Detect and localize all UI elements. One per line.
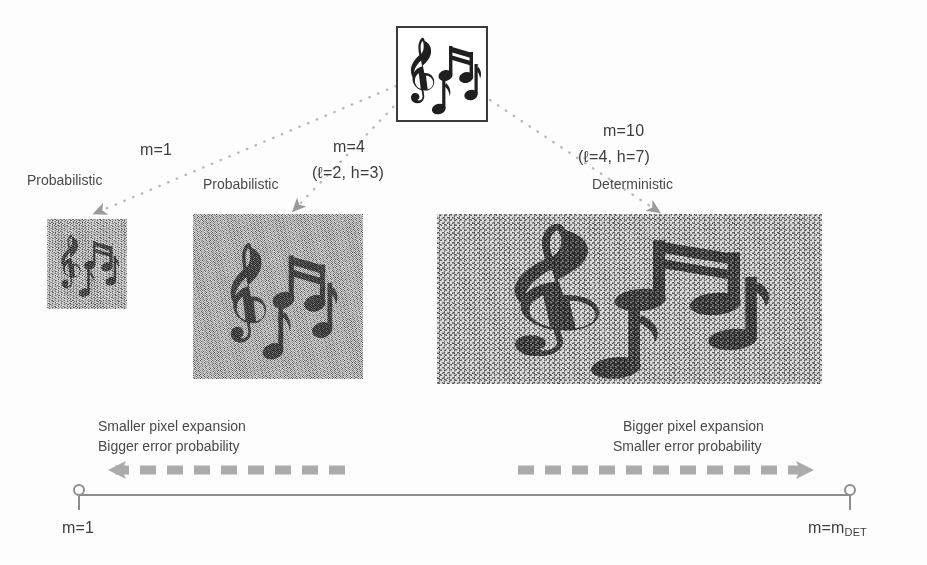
share-image-m4 [193, 214, 363, 379]
arrow-left [108, 461, 345, 479]
branch-m4-scheme-label: Probabilistic [203, 176, 278, 194]
branch-m4-params-label: (ℓ=2, h=3) [312, 163, 384, 183]
branch-m10-scheme-label: Deterministic [592, 176, 673, 194]
axis-label-right-prefix: m=m [808, 519, 845, 536]
music-notes-icon [398, 28, 486, 120]
axis-label-left: m=1 [62, 518, 94, 538]
share-image-m1 [47, 219, 127, 309]
annotation-left-line2: Bigger error probability [98, 438, 240, 456]
figure-canvas: m=1 Probabilistic m=4 (ℓ=2, h=3) Probabi… [0, 0, 927, 565]
axis-label-right-subscript: DET [845, 526, 867, 538]
branch-m1-m-label: m=1 [140, 140, 172, 160]
arrow-right [518, 461, 814, 479]
branch-m10-params-label: (ℓ=4, h=7) [578, 147, 650, 167]
share-m4-notes-art [207, 228, 349, 368]
branch-m4-m-label: m=4 [333, 137, 365, 157]
annotation-left-line1: Smaller pixel expansion [98, 418, 246, 436]
branch-m1-scheme-label: Probabilistic [27, 172, 102, 190]
axis-tick-right [849, 494, 851, 510]
branch-m10-m-label: m=10 [603, 121, 644, 141]
share-image-m10 [437, 214, 822, 384]
axis-tick-left [78, 494, 80, 510]
axis-line [78, 494, 850, 496]
annotation-right-line2: Smaller error probability [613, 438, 762, 456]
share-m1-notes-art [51, 225, 123, 303]
secret-image [396, 26, 488, 122]
share-m10-notes-art [497, 224, 787, 382]
axis-label-right: m=mDET [808, 518, 867, 538]
annotation-right-line1: Bigger pixel expansion [623, 418, 764, 436]
